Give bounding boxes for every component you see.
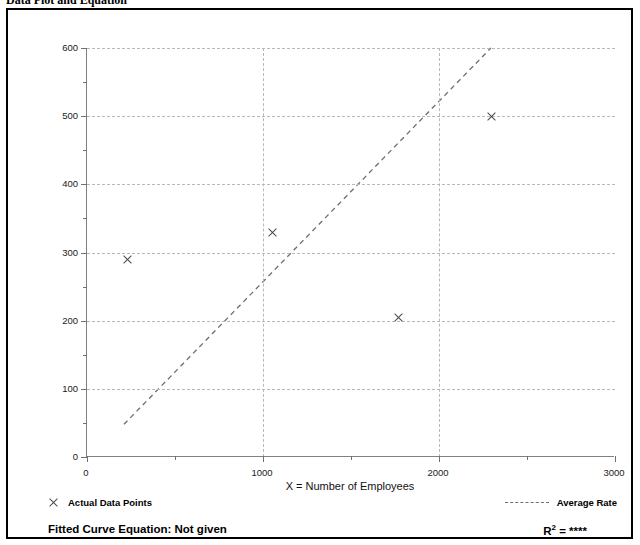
gridline-horizontal [87,389,615,390]
x-axis-minor-tick [527,456,528,460]
y-axis-title: T = Average Vehicle Trip Ends [34,0,46,10]
y-axis-tick-label: 600 [38,42,78,53]
data-point-marker [486,111,497,122]
y-axis-tick-label: 500 [38,110,78,121]
x-marker-icon [48,497,59,508]
x-axis-tick-label: 1000 [232,467,292,478]
y-axis-tick [81,253,87,254]
y-axis-minor-tick [83,82,87,83]
x-axis-tick-label: 0 [56,467,116,478]
y-axis-minor-tick [83,355,87,356]
y-axis-tick [81,116,87,117]
x-axis-tick [615,456,616,462]
x-axis-tick [439,456,440,462]
legend-item-average-rate: Average Rate [505,497,617,508]
x-axis-minor-tick [175,456,176,460]
y-axis-tick [81,321,87,322]
chart-frame: T = Average Vehicle Trip Ends X = Number… [6,8,633,539]
y-axis-tick [81,48,87,49]
gridline-horizontal [87,184,615,185]
gridline-vertical [263,48,264,457]
data-point-marker [122,254,133,265]
x-axis-minor-tick [351,456,352,460]
data-point-marker [267,227,278,238]
x-axis-title: X = Number of Employees [86,480,614,492]
gridline-horizontal [87,253,615,254]
y-axis-tick-label: 300 [38,247,78,258]
x-axis-tick-label: 3000 [584,467,640,478]
r-squared-equals: = [556,525,569,537]
y-axis-tick-label: 100 [38,383,78,394]
data-point-marker [393,312,404,323]
y-axis-minor-tick [83,423,87,424]
y-axis-minor-tick [83,150,87,151]
average-rate-line [124,48,491,424]
y-axis-tick [81,184,87,185]
r-squared-result: **** [569,525,587,537]
y-axis-tick-label: 400 [38,178,78,189]
gridline-horizontal [87,321,615,322]
plot-area [86,48,614,457]
legend-label-average: Average Rate [557,497,617,508]
dashed-line-icon [505,502,549,503]
gridline-horizontal [87,48,615,49]
y-axis-minor-tick [83,287,87,288]
x-axis-tick [87,456,88,462]
chart-footer: Fitted Curve Equation: Not given R2 = **… [8,523,635,545]
r-squared-label: R [543,525,551,537]
y-axis-tick-label: 200 [38,315,78,326]
x-axis-tick-label: 2000 [408,467,468,478]
chart-legend: Actual Data Points Average Rate [8,497,635,517]
fitted-curve-equation: Fitted Curve Equation: Not given [48,523,227,535]
y-axis-tick [81,389,87,390]
gridline-vertical [439,48,440,457]
r-squared-value: R2 = **** [543,523,587,537]
legend-label-actual: Actual Data Points [68,497,152,508]
x-axis-tick [263,456,264,462]
gridline-horizontal [87,116,615,117]
legend-item-actual-data-points: Actual Data Points [48,497,152,508]
page-header-title: Data Plot and Equation [6,0,127,8]
y-axis-minor-tick [83,218,87,219]
y-axis-tick-label: 0 [38,451,78,462]
